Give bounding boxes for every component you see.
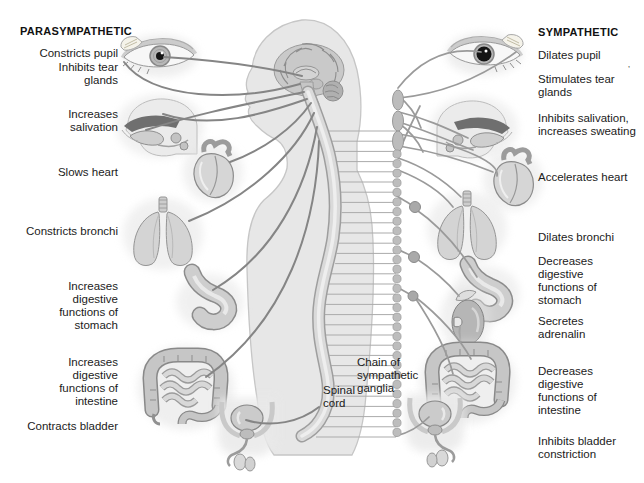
label-inhibits-tear-glands: Inhibits tear glands [38, 61, 118, 87]
collateral-ganglion [410, 202, 421, 213]
label-constricts-bronchi: Constricts bronchi [26, 225, 118, 238]
dilated-pupil [474, 44, 494, 64]
label-slows-heart: Slows heart [58, 166, 118, 179]
label-dilates-bronchi: Dilates bronchi [538, 231, 614, 244]
label-accelerates-heart: Accelerates heart [538, 171, 628, 184]
bladder-icon-left [218, 398, 276, 471]
lungs-icon-left [123, 197, 203, 270]
label-dilates-pupil: Dilates pupil [538, 49, 601, 62]
label-decreases-digestion-stomach: Decreases digestive functions of stomach [538, 255, 622, 307]
label-sympathetic-chain: Chain of sympathetic ganglia [357, 356, 447, 395]
collateral-ganglion [408, 291, 418, 301]
label-inhibits-bladder: Inhibits bladder constriction [538, 435, 636, 461]
label-secretes-adrenalin: Secretes adrenalin [538, 315, 612, 341]
label-inhibits-salivation: Inhibits salivation, increases sweating [538, 112, 642, 138]
stray-mark: ’ [628, 64, 630, 74]
label-spinal-cord: Spinal cord [323, 384, 367, 410]
stomach-icon-left [176, 272, 244, 330]
parasympathetic-heading: PARASYMPATHETIC [20, 25, 132, 38]
label-contracts-bladder: Contracts bladder [27, 420, 118, 433]
label-increases-digestion-intestine: Increases digestive functions of intesti… [34, 356, 118, 408]
label-increases-salivation: Increases salivation [38, 108, 118, 134]
label-stimulates-tear-glands: Stimulates tear glands [538, 73, 622, 99]
label-increases-digestion-stomach: Increases digestive functions of stomach [34, 280, 118, 332]
collateral-ganglion [409, 252, 420, 263]
label-constricts-pupil: Constricts pupil [39, 47, 118, 60]
label-decreases-digestion-intestine: Decreases digestive functions of intesti… [538, 365, 622, 417]
constricted-pupil [150, 46, 170, 66]
autonomic-nervous-system-diagram: PARASYMPATHETIC SYMPATHETIC Constricts p… [0, 0, 644, 483]
sympathetic-heading: SYMPATHETIC [538, 26, 619, 39]
bladder-icon-right [406, 394, 464, 467]
